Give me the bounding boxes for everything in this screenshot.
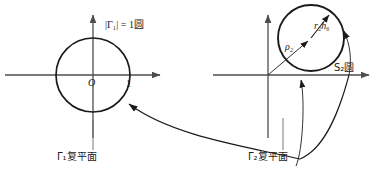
gamma1-plane-label: Γ₁复平面: [57, 152, 97, 162]
s2-circle-label: S₂圆: [334, 63, 354, 73]
rho2-label: ρ₂: [285, 42, 293, 52]
mapping-curve-to-right: [300, 75, 349, 159]
mapping-curve-arrow-into-circle: [296, 80, 303, 166]
rho2-label-text: ρ₂: [285, 41, 293, 52]
origin-label-text: O: [88, 77, 95, 88]
r2h6-label: r₂h₆: [314, 21, 330, 31]
left-panel-group: [5, 15, 160, 150]
unit-tick-label: 1: [126, 79, 131, 89]
origin-label: O: [88, 78, 95, 88]
right-panel-group: [213, 5, 369, 150]
gamma2-plane-label: Γ₂复平面: [248, 152, 288, 162]
gamma1-circle-label: |Γ₁| = 1圆: [105, 20, 144, 30]
r2h6-label-text: r₂h₆: [314, 20, 330, 31]
figure-container: |Γ₁| = 1圆 O 1 Γ₁复平面 Γ₂复平面 r₂h₆ ρ₂ S₂圆: [0, 0, 378, 184]
